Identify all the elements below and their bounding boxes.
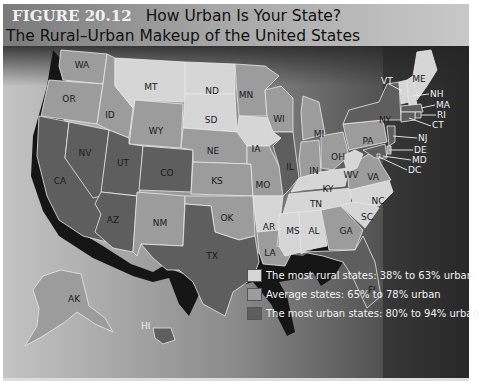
state-RI (415, 112, 421, 118)
label-SC: SC (361, 212, 373, 222)
label-WV: WV (343, 170, 359, 180)
label-IN: IN (309, 166, 318, 176)
legend-label-rural: The most rural states: 38% to 63% urban (266, 270, 473, 281)
label-MS: MS (286, 226, 300, 236)
us-map: WA OR CA NV ID MT WY UT CO AZ NM ND SD N… (3, 46, 469, 378)
label-DC: DC (408, 165, 421, 175)
figure-header: FIGURE 20.12How Urban Is Your State? The… (3, 4, 469, 46)
state-DC (377, 154, 380, 157)
bottom-border (3, 378, 469, 381)
label-VA: VA (367, 172, 380, 182)
title-line-1: FIGURE 20.12How Urban Is Your State? (12, 7, 341, 25)
label-WI: WI (273, 114, 285, 124)
label-NM: NM (153, 218, 168, 228)
state-CT (401, 112, 415, 122)
label-UT: UT (117, 158, 130, 168)
label-WA: WA (75, 60, 90, 70)
label-SD: SD (205, 115, 218, 125)
label-RI: RI (437, 110, 446, 120)
label-NJ: NJ (418, 133, 427, 143)
legend: The most rural states: 38% to 63% urban … (247, 266, 479, 323)
label-AZ: AZ (107, 215, 119, 225)
label-CO: CO (160, 168, 173, 178)
label-IA: IA (252, 144, 262, 154)
legend-label-urban: The most urban states: 80% to 94% urban (266, 308, 479, 319)
label-AL: AL (308, 226, 319, 236)
label-ID: ID (105, 110, 115, 120)
label-ND: ND (205, 86, 219, 96)
legend-item-average: Average states: 65% to 78% urban (247, 285, 479, 304)
label-CT: CT (432, 120, 444, 130)
label-MO: MO (256, 180, 271, 190)
label-NY: NY (379, 115, 392, 125)
label-NE: NE (207, 146, 220, 156)
label-NC: NC (371, 196, 384, 206)
label-AK: AK (68, 294, 81, 304)
label-VT: VT (381, 76, 393, 86)
label-AR: AR (263, 222, 275, 232)
label-MD: MD (412, 155, 427, 165)
label-HI: HI (141, 321, 150, 331)
figure-number: FIGURE 20.12 (12, 7, 132, 25)
label-ME: ME (412, 74, 426, 84)
label-DE: DE (414, 145, 427, 155)
label-GA: GA (339, 226, 353, 236)
label-MT: MT (144, 82, 158, 92)
figure-subtitle: The Rural–Urban Makeup of the United Sta… (6, 27, 360, 45)
label-WY: WY (149, 126, 164, 136)
label-MN: MN (239, 90, 254, 100)
label-TN: TN (309, 199, 322, 209)
figure-title: How Urban Is Your State? (146, 7, 341, 25)
legend-swatch-average (247, 288, 262, 301)
label-KS: KS (211, 176, 223, 186)
label-TX: TX (205, 251, 218, 261)
label-MI: MI (314, 129, 324, 139)
label-OH: OH (331, 152, 345, 162)
legend-item-rural: The most rural states: 38% to 63% urban (247, 266, 479, 285)
label-OR: OR (62, 94, 75, 104)
legend-swatch-urban (247, 307, 262, 320)
label-NH: NH (430, 89, 444, 99)
legend-label-average: Average states: 65% to 78% urban (266, 289, 441, 300)
label-KY: KY (322, 184, 334, 194)
label-NV: NV (79, 148, 93, 158)
label-OK: OK (221, 213, 235, 223)
label-LA: LA (264, 248, 276, 258)
label-MA: MA (436, 100, 451, 110)
legend-item-urban: The most urban states: 80% to 94% urban (247, 304, 479, 323)
legend-swatch-rural (247, 269, 262, 282)
label-CA: CA (54, 176, 67, 186)
figure: FIGURE 20.12How Urban Is Your State? The… (3, 0, 469, 381)
state-SD (183, 94, 237, 132)
label-PA: PA (362, 136, 374, 146)
state-WY (129, 100, 183, 148)
label-IL: IL (286, 162, 294, 172)
